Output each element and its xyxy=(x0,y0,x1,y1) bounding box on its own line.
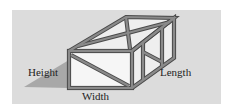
height-label: Height xyxy=(28,67,58,78)
width-label: Width xyxy=(82,91,109,102)
box-frame-diagram xyxy=(0,0,227,109)
length-label: Length xyxy=(160,67,191,78)
